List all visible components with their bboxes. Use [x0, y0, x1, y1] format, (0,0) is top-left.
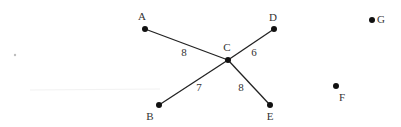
node-label-f: F [339, 91, 345, 103]
scan-line [30, 89, 160, 90]
edge-c-b [159, 60, 228, 105]
node-label-b: B [146, 110, 153, 122]
node-g [369, 17, 375, 23]
node-b [156, 102, 162, 108]
node-label-e: E [267, 110, 274, 122]
edge-c-e [228, 60, 270, 105]
node-e [267, 102, 273, 108]
scan-speck [14, 54, 16, 56]
edge-weight-c-b: 7 [196, 81, 202, 93]
edge-weight-c-e: 8 [238, 81, 244, 93]
node-f [333, 83, 339, 89]
node-label-d: D [269, 11, 277, 23]
node-label-a: A [138, 10, 146, 22]
node-d [271, 26, 277, 32]
node-a [142, 26, 148, 32]
graph-diagram: 8 6 7 8 A B C D E F G [0, 0, 401, 127]
node-c [225, 57, 231, 63]
node-label-c: C [223, 41, 230, 53]
edge-weight-a-c: 8 [181, 46, 187, 58]
edge-weight-c-d: 6 [251, 46, 257, 58]
node-label-g: G [377, 13, 385, 25]
